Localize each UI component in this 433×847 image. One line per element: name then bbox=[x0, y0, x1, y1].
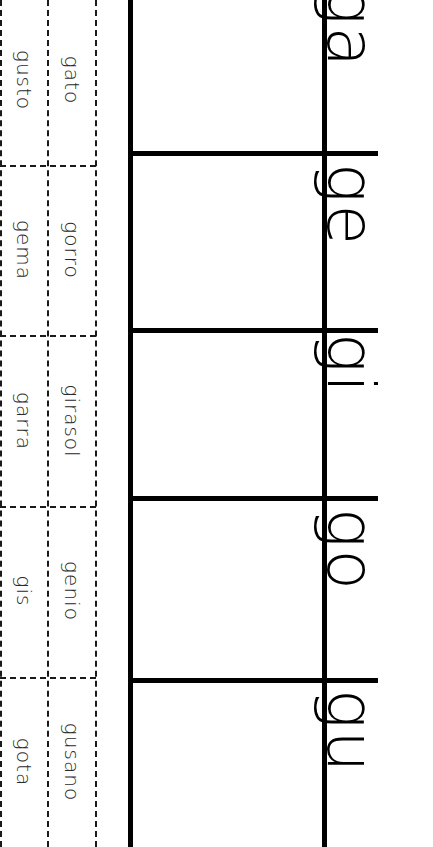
syllable-header: ga bbox=[310, 0, 390, 135]
drop-zone-ge[interactable] bbox=[133, 156, 322, 328]
word-card[interactable]: gusano bbox=[52, 677, 92, 847]
syllable-header: go bbox=[310, 508, 390, 658]
drop-zone-gu[interactable] bbox=[133, 683, 322, 847]
syllable-header: gi bbox=[310, 333, 390, 483]
dashed-divider bbox=[95, 0, 97, 847]
word-card[interactable]: girasol bbox=[52, 336, 92, 506]
drop-zone-ga[interactable] bbox=[133, 0, 322, 151]
drop-zone-go[interactable] bbox=[133, 501, 322, 678]
word-card[interactable]: gato bbox=[52, 0, 92, 165]
syllable-header: gu bbox=[310, 689, 390, 839]
word-card[interactable]: gema bbox=[4, 165, 44, 335]
word-card[interactable]: genio bbox=[52, 506, 92, 676]
word-card[interactable]: gorro bbox=[52, 165, 92, 335]
word-card[interactable]: gis bbox=[4, 506, 44, 676]
word-card[interactable]: garra bbox=[4, 336, 44, 506]
word-card[interactable]: gusto bbox=[4, 0, 44, 165]
word-card[interactable]: gota bbox=[4, 677, 44, 847]
syllable-header: ge bbox=[310, 163, 390, 313]
dashed-divider bbox=[0, 0, 2, 847]
drop-zone-gi[interactable] bbox=[133, 333, 322, 496]
dashed-divider bbox=[47, 0, 49, 847]
